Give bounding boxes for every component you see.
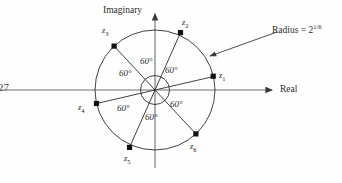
root-label-z4: z4 [78, 103, 85, 114]
radius-callout-text: Radius = 2 [272, 25, 313, 35]
real-axis-label: Real [280, 85, 297, 95]
imaginary-axis-label: Imaginary [103, 6, 142, 16]
angle-label-lower-right: 60° [170, 100, 183, 109]
radius-callout-exponent: 1/6 [313, 23, 321, 30]
root-label-z3: z3 [102, 26, 109, 37]
root-label-z2: z2 [182, 18, 189, 29]
figure-page: Imaginary Real Radius = 21/6 60° 60° 60°… [0, 0, 342, 183]
root-label-z2-index: 2 [185, 22, 188, 29]
root-label-z6-index: 6 [193, 146, 196, 153]
root-label-z6: z6 [190, 142, 197, 153]
root-point-z2 [178, 30, 183, 35]
root-label-z4-index: 4 [81, 107, 84, 114]
root-point-z3 [112, 44, 117, 49]
root-label-z1: z1 [219, 71, 226, 82]
radius-callout-label: Radius = 21/6 [272, 24, 322, 36]
root-point-z5 [127, 145, 132, 150]
angle-label-bottom: 60° [145, 113, 158, 122]
radius-callout-arrow [210, 32, 277, 56]
root-label-z3-index: 3 [105, 30, 108, 37]
root-label-z5-index: 5 [127, 158, 130, 165]
angle-label-lower-left: 60° [117, 104, 130, 113]
page-number: 27 [0, 82, 9, 93]
root-point-z1 [211, 74, 216, 79]
angle-label-upper-left: 60° [119, 69, 132, 78]
root-label-z5: z5 [124, 154, 131, 165]
angle-label-upper-right: 60° [165, 66, 178, 75]
root-point-z4 [94, 101, 99, 106]
root-point-z6 [193, 131, 198, 136]
angle-label-top: 60° [140, 57, 153, 66]
root-label-z1-index: 1 [222, 75, 225, 82]
